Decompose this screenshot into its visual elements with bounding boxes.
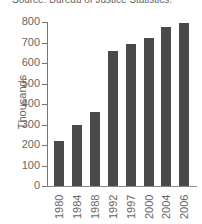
y-tick-label: 200 xyxy=(8,138,40,150)
y-tick-label: 700 xyxy=(8,36,40,48)
y-tick xyxy=(42,43,47,44)
x-tick-label: 1997 xyxy=(125,195,137,219)
bar-1980 xyxy=(54,141,64,186)
x-tick-label: 2000 xyxy=(143,195,155,219)
x-tick-label: 1984 xyxy=(71,195,83,219)
y-tick-label: 800 xyxy=(8,15,40,27)
y-tick xyxy=(42,186,47,187)
y-tick-label: 400 xyxy=(8,97,40,109)
bar-2004 xyxy=(161,27,171,186)
y-tick xyxy=(42,63,47,64)
y-tick xyxy=(42,22,47,23)
x-tick-label: 1980 xyxy=(53,195,65,219)
y-tick xyxy=(42,104,47,105)
bar-1997 xyxy=(126,44,136,186)
x-axis xyxy=(47,186,197,187)
y-tick-label: 100 xyxy=(8,159,40,171)
bar-1984 xyxy=(72,125,82,187)
x-tick-label: 2006 xyxy=(178,195,190,219)
y-tick-label: 300 xyxy=(8,118,40,130)
y-tick-label: 500 xyxy=(8,77,40,89)
y-tick xyxy=(42,84,47,85)
bar-2006 xyxy=(179,23,189,186)
y-tick-label: 0 xyxy=(8,179,40,191)
x-tick-label: 2004 xyxy=(160,195,172,219)
bar-1992 xyxy=(108,51,118,186)
y-tick xyxy=(42,145,47,146)
y-tick xyxy=(42,125,47,126)
source-note: Source: Bureau of Justice Statistics. xyxy=(12,0,172,5)
bar-2000 xyxy=(144,38,154,186)
bar-1988 xyxy=(90,112,100,186)
y-tick-label: 600 xyxy=(8,56,40,68)
y-axis xyxy=(47,22,48,187)
x-tick-label: 1992 xyxy=(107,195,119,219)
x-tick-label: 1988 xyxy=(89,195,101,219)
y-tick xyxy=(42,166,47,167)
